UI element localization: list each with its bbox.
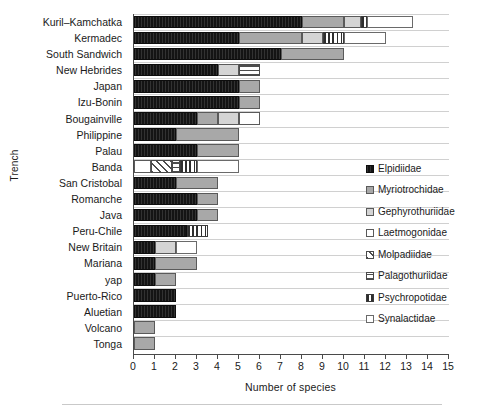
legend-item-myriotrochidae[interactable]: Myriotrochidae	[366, 180, 455, 202]
legend-swatch-icon	[366, 186, 374, 194]
stacked-bar	[134, 48, 344, 61]
bar-segment-gephyrothuriidae	[344, 16, 361, 29]
x-tick-mark	[217, 354, 218, 359]
bar-segment-molpadiidae	[151, 160, 172, 173]
y-axis-label: San Cristobal	[0, 175, 128, 191]
bar-segment-myriotrochidae	[239, 80, 260, 93]
bar-row	[134, 62, 449, 78]
legend: ElpidiidaeMyriotrochidaeGephyrothuriidae…	[366, 158, 455, 330]
legend-label: Elpidiidae	[378, 164, 421, 174]
y-axis-label: Puerto-Rico	[0, 288, 128, 304]
y-axis-label: Palau	[0, 143, 128, 159]
legend-swatch-icon	[366, 294, 374, 302]
bar-segment-synalactidae	[344, 32, 386, 45]
bar-segment-elpidiidae	[134, 144, 197, 157]
stacked-bar	[134, 289, 176, 302]
legend-item-palagothuriidae[interactable]: Palagothuriidae	[366, 266, 455, 288]
stacked-bar	[134, 193, 218, 206]
bar-segment-myriotrochidae	[281, 48, 344, 61]
x-tick-mark	[259, 354, 260, 359]
legend-item-psychropotidae[interactable]: Psychropotidae	[366, 287, 455, 309]
bar-row	[134, 143, 449, 159]
bar-segment-gephyrothuriidae	[302, 32, 323, 45]
legend-label: Synalactidae	[378, 314, 435, 324]
bar-segment-elpidiidae	[134, 48, 281, 61]
footer-divider	[62, 404, 442, 405]
stacked-bar	[134, 16, 413, 29]
y-axis-label: Kermadec	[0, 30, 128, 46]
bar-segment-elpidiidae	[134, 16, 302, 29]
legend-item-elpidiidae[interactable]: Elpidiidae	[366, 158, 455, 180]
x-tick-mark	[133, 354, 134, 359]
legend-swatch-icon	[366, 315, 374, 323]
legend-item-gephyrothuriidae[interactable]: Gephyrothuriidae	[366, 201, 455, 223]
bar-segment-gephyrothuriidae	[155, 241, 176, 254]
y-axis-label: Bougainville	[0, 111, 128, 127]
x-tick-mark	[406, 354, 407, 359]
bar-row	[134, 78, 449, 94]
bar-segment-gephyrothuriidae	[218, 112, 239, 125]
bar-segment-elpidiidae	[134, 193, 197, 206]
y-axis-label: South Sandwich	[0, 46, 128, 62]
legend-label: Psychropotidae	[378, 293, 447, 303]
bar-segment-myriotrochidae	[155, 257, 197, 270]
stacked-bar	[134, 160, 239, 173]
legend-item-laetmogonidae[interactable]: Laetmogonidae	[366, 223, 455, 245]
x-tick-mark	[238, 354, 239, 359]
stacked-bar	[134, 337, 155, 350]
bar-segment-synalactidae	[176, 241, 197, 254]
bar-segment-myriotrochidae	[134, 337, 155, 350]
stacked-bar	[134, 209, 218, 222]
x-tick-mark	[448, 354, 449, 359]
y-axis-label: Kuril–Kamchatka	[0, 14, 128, 30]
x-tick-mark	[280, 354, 281, 359]
bar-row	[134, 336, 449, 352]
bar-segment-elpidiidae	[134, 112, 197, 125]
x-tick-mark	[427, 354, 428, 359]
row-gridline	[134, 336, 449, 337]
bar-segment-elpidiidae	[134, 177, 176, 190]
stacked-bar	[134, 225, 208, 238]
bar-segment-elpidiidae	[134, 96, 239, 109]
bar-segment-palagothuriidae	[239, 64, 260, 77]
x-tick-mark	[301, 354, 302, 359]
legend-swatch-icon	[366, 165, 374, 173]
bar-segment-elpidiidae	[134, 225, 187, 238]
bar-segment-myriotrochidae	[197, 112, 218, 125]
stacked-bar	[134, 241, 197, 254]
bar-row	[134, 111, 449, 127]
x-tick-mark	[154, 354, 155, 359]
stacked-bar	[134, 64, 260, 77]
legend-label: Palagothuriidae	[378, 271, 448, 281]
bar-segment-myriotrochidae	[302, 16, 344, 29]
x-tick-label: 15	[435, 360, 461, 372]
legend-item-molpadiidae[interactable]: Molpadiidae	[366, 244, 455, 266]
bar-segment-myriotrochidae	[155, 273, 176, 286]
bar-segment-myriotrochidae	[197, 193, 218, 206]
bar-segment-elpidiidae	[134, 305, 176, 318]
bar-segment-elpidiidae	[134, 209, 197, 222]
legend-swatch-icon	[366, 251, 374, 259]
y-axis-label: Mariana	[0, 255, 128, 271]
x-tick-mark	[364, 354, 365, 359]
x-axis-line	[133, 354, 448, 355]
bar-segment-myriotrochidae	[176, 177, 218, 190]
legend-item-synalactidae[interactable]: Synalactidae	[366, 309, 455, 331]
y-axis-label: Izu-Bonin	[0, 94, 128, 110]
bar-row	[134, 14, 449, 30]
bar-row	[134, 46, 449, 62]
bar-segment-myriotrochidae	[239, 32, 302, 45]
legend-label: Laetmogonidae	[378, 228, 447, 238]
bar-segment-psychropotidae	[187, 225, 208, 238]
y-axis-label: Romanche	[0, 191, 128, 207]
bar-segment-elpidiidae	[134, 241, 155, 254]
bar-row	[134, 127, 449, 143]
bar-segment-gephyrothuriidae	[218, 64, 239, 77]
y-axis-label: Tonga	[0, 336, 128, 352]
bar-segment-psychropotidae	[323, 32, 344, 45]
bar-segment-myriotrochidae	[197, 144, 239, 157]
bar-segment-elpidiidae	[134, 80, 239, 93]
legend-label: Molpadiidae	[378, 250, 432, 260]
y-axis-category-labels: Kuril–KamchatkaKermadecSouth SandwichNew…	[0, 14, 128, 352]
y-axis-label: Peru-Chile	[0, 223, 128, 239]
